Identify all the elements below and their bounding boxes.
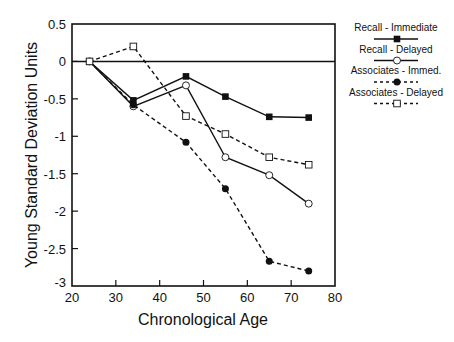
- legend-marker: [394, 100, 401, 107]
- y-tick-label: -2.5: [44, 242, 66, 257]
- data-point-marker: [305, 200, 312, 207]
- data-point-marker: [266, 154, 273, 161]
- legend-marker: [394, 36, 401, 43]
- x-tick-label: 80: [328, 290, 342, 305]
- data-point-marker: [222, 93, 229, 100]
- y-tick-label: -1: [54, 129, 66, 144]
- data-series: [86, 43, 312, 274]
- plot-frame: [72, 24, 335, 286]
- series-recall-immediate: [86, 58, 312, 121]
- x-tick-label: 70: [284, 290, 298, 305]
- data-point-marker: [130, 43, 137, 50]
- series-recall-delayed: [86, 58, 312, 207]
- data-point-marker: [222, 185, 229, 192]
- data-point-marker: [305, 268, 312, 275]
- data-point-marker: [183, 113, 190, 120]
- plot-border: [72, 24, 335, 286]
- legend-item: Associates - Delayed: [349, 87, 443, 107]
- line-chart: 203040506070800.50-0.5-1-1.5-2-2.5-3 Chr…: [0, 0, 454, 342]
- x-tick-label: 50: [196, 290, 210, 305]
- y-tick-label: -3: [54, 275, 66, 290]
- legend-marker: [394, 57, 401, 64]
- series-line: [90, 61, 309, 271]
- x-tick-label: 40: [152, 290, 166, 305]
- legend-item: Associates - Immed.: [351, 65, 442, 86]
- legend-label: Recall - Delayed: [359, 44, 432, 55]
- x-tick-label: 20: [65, 290, 79, 305]
- legend-label: Associates - Immed.: [351, 65, 442, 76]
- x-axis-title: Chronological Age: [138, 311, 268, 328]
- data-point-marker: [183, 73, 190, 80]
- y-tick-label: -2: [54, 204, 66, 219]
- y-tick-label: 0.5: [48, 17, 66, 32]
- y-tick-label: -0.5: [44, 92, 66, 107]
- y-tick-label: -1.5: [44, 167, 66, 182]
- data-point-marker: [222, 131, 229, 138]
- data-point-marker: [305, 114, 312, 121]
- data-point-marker: [182, 139, 189, 146]
- series-line: [90, 46, 309, 164]
- legend-item: Recall - Delayed: [359, 44, 432, 65]
- legend-marker: [394, 79, 401, 86]
- data-point-marker: [222, 154, 229, 161]
- x-tick-label: 60: [240, 290, 254, 305]
- data-point-marker: [305, 161, 312, 168]
- legend: Recall - ImmediateRecall - DelayedAssoci…: [349, 22, 443, 107]
- data-point-marker: [266, 172, 273, 179]
- legend-label: Recall - Immediate: [354, 22, 438, 33]
- data-point-marker: [266, 258, 273, 265]
- y-axis-title: Young Standard Deviation Units: [23, 42, 40, 268]
- series-associates-immed-: [86, 58, 312, 275]
- y-tick-label: 0: [59, 54, 66, 69]
- legend-item: Recall - Immediate: [354, 22, 438, 42]
- data-point-marker: [86, 58, 93, 65]
- legend-label: Associates - Delayed: [349, 87, 443, 98]
- data-point-marker: [266, 114, 273, 121]
- data-point-marker: [182, 82, 189, 89]
- x-tick-label: 30: [109, 290, 123, 305]
- data-point-marker: [130, 101, 137, 108]
